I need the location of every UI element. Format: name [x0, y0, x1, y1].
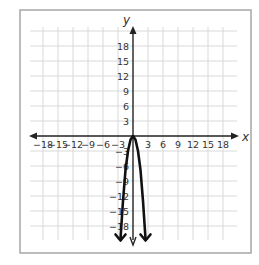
y-tick-label: 3 — [123, 116, 129, 127]
y-tick-label: 12 — [117, 71, 129, 82]
x-axis-label: x — [241, 130, 250, 144]
y-tick-label: −9 — [115, 176, 129, 187]
x-tick-label: 15 — [202, 139, 214, 150]
y-tick-label: 18 — [117, 41, 129, 52]
x-tick-label: 3 — [145, 139, 151, 150]
x-tick-label: 12 — [187, 139, 199, 150]
x-tick-label: 18 — [217, 139, 229, 150]
x-tick-label: 9 — [175, 139, 181, 150]
coordinate-plane-svg: −18−15−12−9−6−3369121518181512963−3−6−9−… — [0, 0, 259, 265]
y-tick-label: −12 — [109, 191, 129, 202]
y-tick-label: 15 — [117, 56, 129, 67]
coordinate-plane-figure: −18−15−12−9−6−3369121518181512963−3−6−9−… — [0, 0, 259, 265]
y-tick-label: −15 — [109, 206, 129, 217]
y-axis-label: y — [122, 13, 131, 27]
x-tick-label: −9 — [81, 139, 95, 150]
y-tick-label: −18 — [109, 221, 129, 232]
y-tick-label: 9 — [123, 86, 129, 97]
x-tick-label: −6 — [96, 139, 110, 150]
x-tick-label: 6 — [160, 139, 166, 150]
y-tick-label: 6 — [123, 101, 129, 112]
